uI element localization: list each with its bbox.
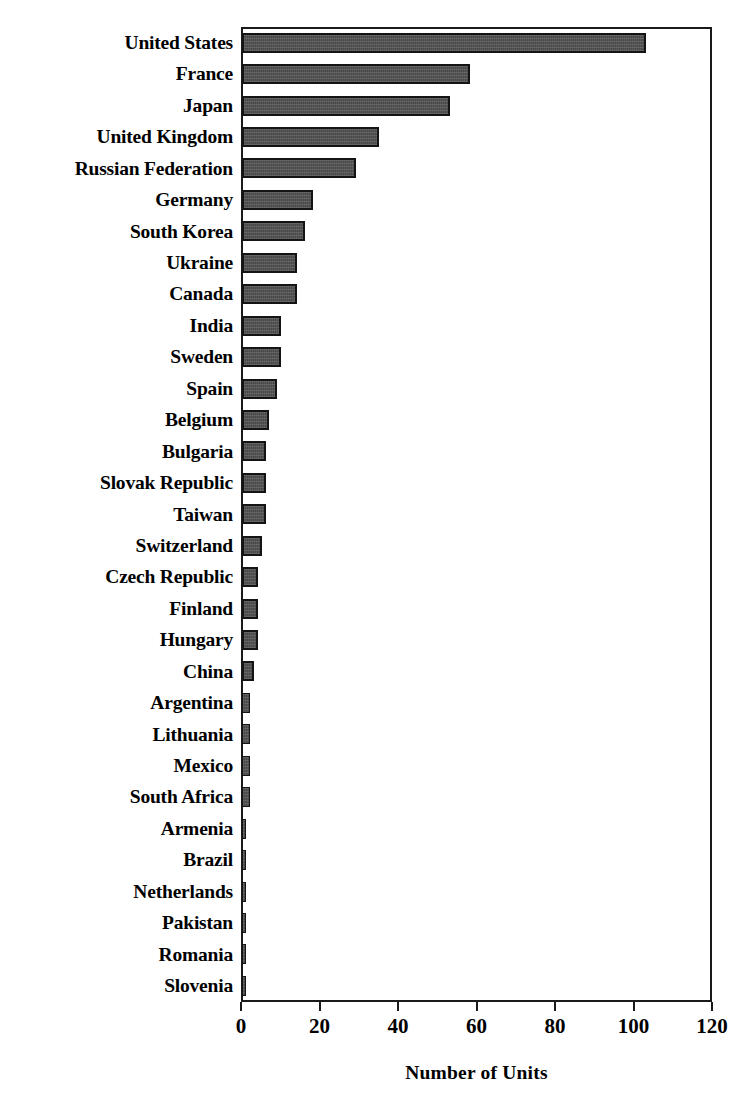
bar <box>242 33 646 53</box>
bar-row: Japan <box>0 90 755 121</box>
bar-track <box>242 121 755 152</box>
category-label: United States <box>0 33 233 53</box>
category-label: France <box>0 64 233 84</box>
bar <box>242 913 246 933</box>
bar <box>242 316 281 336</box>
bar-track <box>242 624 755 655</box>
bar-row: Pakistan <box>0 907 755 938</box>
category-label: Hungary <box>0 630 233 650</box>
category-label: Netherlands <box>0 882 233 902</box>
bar-track <box>242 467 755 498</box>
category-label: Lithuania <box>0 725 233 745</box>
category-label: Finland <box>0 599 233 619</box>
x-tick <box>319 1002 321 1011</box>
category-label: Bulgaria <box>0 442 233 462</box>
bar-row: Mexico <box>0 750 755 781</box>
category-label: Brazil <box>0 850 233 870</box>
bar-track <box>242 561 755 592</box>
category-label: Pakistan <box>0 913 233 933</box>
bar <box>242 64 470 84</box>
bar-track <box>242 719 755 750</box>
bar-row: Spain <box>0 373 755 404</box>
x-tick <box>633 1002 635 1011</box>
bar-row: Netherlands <box>0 876 755 907</box>
bar-track <box>242 970 755 1001</box>
bar-row: Lithuania <box>0 719 755 750</box>
bar-row: Bulgaria <box>0 436 755 467</box>
bar-track <box>242 593 755 624</box>
bar <box>242 347 281 367</box>
bar-row: Ukraine <box>0 247 755 278</box>
bar-track <box>242 373 755 404</box>
bar-track <box>242 907 755 938</box>
bar-row: Slovenia <box>0 970 755 1001</box>
bar <box>242 787 250 807</box>
bar <box>242 473 266 493</box>
bar-track <box>242 341 755 372</box>
x-tick <box>240 1002 242 1011</box>
bar-rows: United StatesFranceJapanUnited KingdomRu… <box>0 27 755 1002</box>
category-label: Slovak Republic <box>0 473 233 493</box>
bar-row: Canada <box>0 279 755 310</box>
bar-track <box>242 530 755 561</box>
category-label: Slovenia <box>0 976 233 996</box>
category-label: Romania <box>0 945 233 965</box>
bar-row: Romania <box>0 939 755 970</box>
x-tick <box>397 1002 399 1011</box>
bar-track <box>242 184 755 215</box>
bar <box>242 221 305 241</box>
bar-track <box>242 813 755 844</box>
category-label: Japan <box>0 96 233 116</box>
bar-track <box>242 247 755 278</box>
bar-track <box>242 656 755 687</box>
category-label: Czech Republic <box>0 567 233 587</box>
bar-track <box>242 687 755 718</box>
bar <box>242 379 277 399</box>
bar <box>242 567 258 587</box>
bar <box>242 850 246 870</box>
category-label: India <box>0 316 233 336</box>
bar-row: Brazil <box>0 844 755 875</box>
bar <box>242 253 297 273</box>
bar-row: France <box>0 58 755 89</box>
bar-row: South Korea <box>0 216 755 247</box>
bar-track <box>242 153 755 184</box>
category-label: Mexico <box>0 756 233 776</box>
bar-row: Russian Federation <box>0 153 755 184</box>
category-label: South Korea <box>0 222 233 242</box>
x-tick-label: 40 <box>388 1016 409 1037</box>
x-tick-label: 20 <box>309 1016 330 1037</box>
category-label: Switzerland <box>0 536 233 556</box>
bar <box>242 441 266 461</box>
category-label: Sweden <box>0 347 233 367</box>
category-label: Armenia <box>0 819 233 839</box>
bar <box>242 599 258 619</box>
bar-row: Germany <box>0 184 755 215</box>
bar-track <box>242 436 755 467</box>
bar-row: Belgium <box>0 404 755 435</box>
bar-row: Argentina <box>0 687 755 718</box>
x-tick-label: 0 <box>236 1016 247 1037</box>
bar-row: South Africa <box>0 782 755 813</box>
bar <box>242 819 246 839</box>
bar <box>242 536 262 556</box>
x-tick <box>711 1002 713 1011</box>
bar-row: Hungary <box>0 624 755 655</box>
category-label: China <box>0 662 233 682</box>
bar-track <box>242 844 755 875</box>
category-label: Russian Federation <box>0 159 233 179</box>
bar-track <box>242 499 755 530</box>
bar-row: United States <box>0 27 755 58</box>
bar-track <box>242 876 755 907</box>
bar-row: Finland <box>0 593 755 624</box>
bar <box>242 693 250 713</box>
bar-track <box>242 750 755 781</box>
bar-track <box>242 27 755 58</box>
bar-row: United Kingdom <box>0 121 755 152</box>
bar <box>242 724 250 744</box>
bar <box>242 127 379 147</box>
bar <box>242 944 246 964</box>
x-axis-title: Number of Units <box>241 1062 712 1084</box>
bar-row: India <box>0 310 755 341</box>
bar <box>242 882 246 902</box>
